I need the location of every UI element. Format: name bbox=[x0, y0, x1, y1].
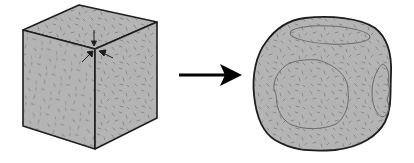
transition-arrow-icon bbox=[179, 64, 242, 86]
rounded-cube bbox=[254, 17, 392, 151]
cube-left-face bbox=[23, 30, 95, 149]
diagram-canvas bbox=[0, 0, 414, 163]
cube bbox=[23, 5, 157, 149]
